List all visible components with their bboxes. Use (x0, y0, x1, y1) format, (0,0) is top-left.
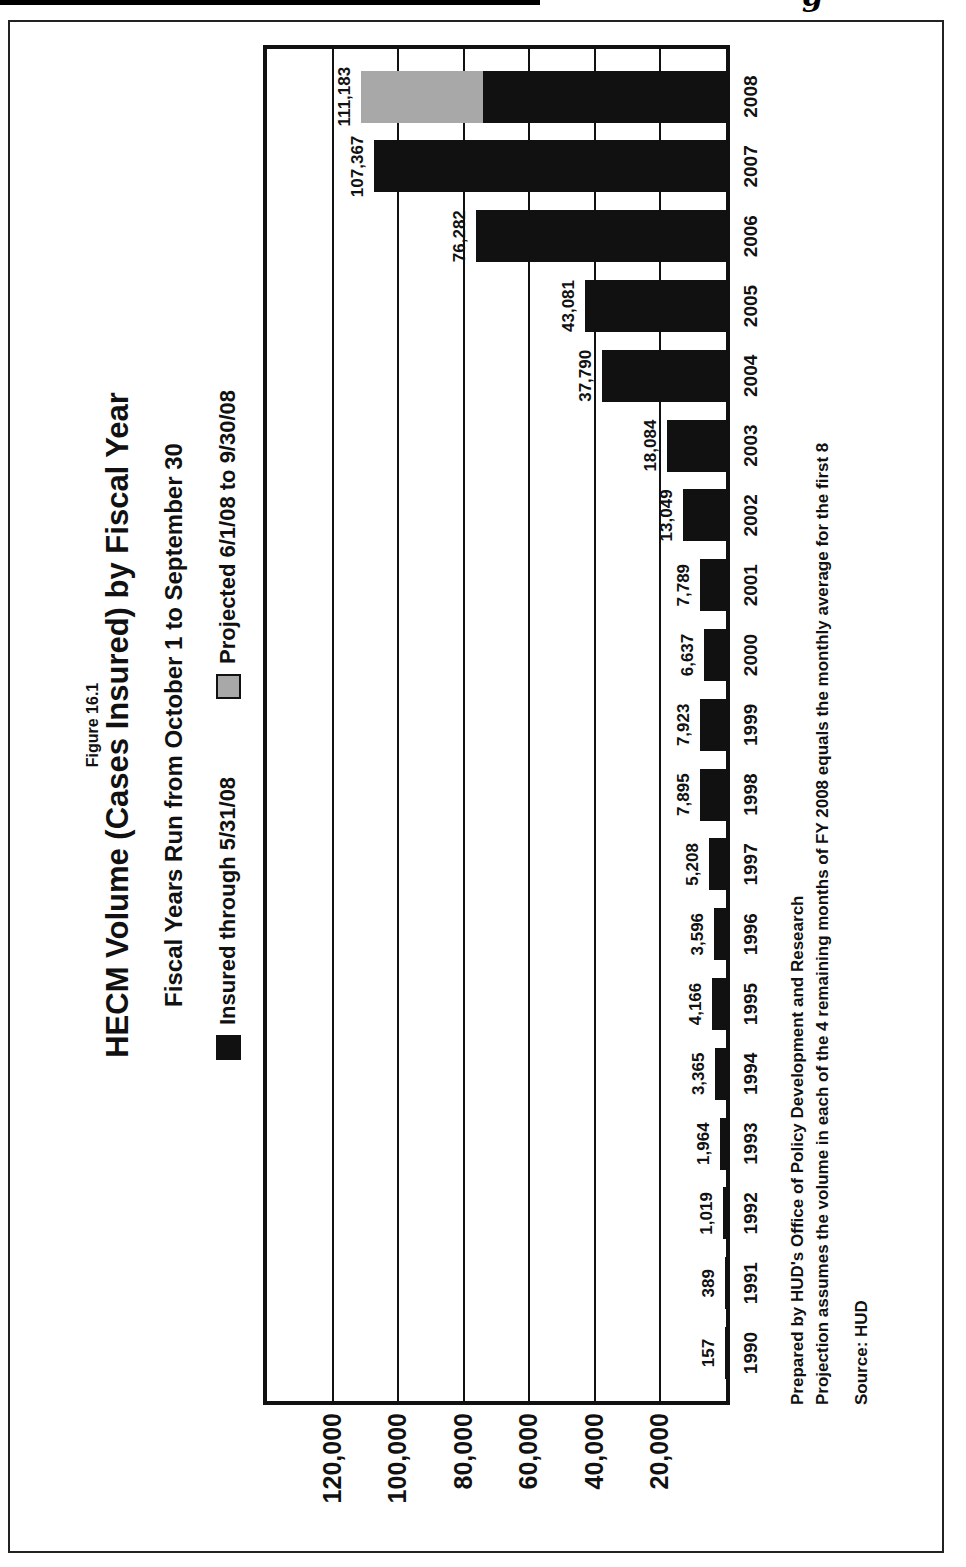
gridline-100000 (397, 49, 399, 1401)
legend-item-insured: Insured through 5/31/08 (215, 777, 241, 1060)
bar-2002 (683, 489, 726, 541)
year-label-1999: 1999 (740, 685, 762, 765)
bar-1999 (700, 699, 726, 751)
year-label-1992: 1992 (740, 1173, 762, 1253)
year-label-1997: 1997 (740, 824, 762, 904)
legend: Insured through 5/31/08 Projected 6/1/08… (208, 45, 248, 1405)
value-axis-label-20000: 20,000 (645, 1413, 674, 1555)
bar-2003 (667, 420, 726, 472)
note-prepared: Prepared by HUD's Office of Policy Devel… (788, 896, 808, 1405)
bar-value-label-2008: 111,183 (335, 67, 355, 127)
plot-area: 1573891,0191,9643,3654,1663,5965,2087,89… (263, 45, 730, 1405)
legend-label-projected: Projected 6/1/08 to 9/30/08 (215, 390, 241, 664)
year-label-2001: 2001 (740, 545, 762, 625)
note-projection: Projection assumes the volume in each of… (813, 443, 833, 1405)
insured-swatch-icon (216, 1035, 241, 1060)
bar-value-label-1993: 1,964 (694, 1122, 714, 1165)
note-source: Source: HUD (852, 1300, 872, 1405)
scanned-page: g g Figure 16.1 HECM Volume (Cases Insur… (0, 0, 966, 1567)
bar-value-label-1995: 4,166 (686, 983, 706, 1026)
bar-1998 (700, 769, 726, 821)
bar-value-label-2006: 76,282 (450, 210, 470, 262)
chart-subtitle: Fiscal Years Run from October 1 to Septe… (160, 5, 188, 1445)
bar-value-label-1998: 7,895 (674, 773, 694, 816)
bar-value-label-2001: 7,789 (674, 564, 694, 607)
year-label-1998: 1998 (740, 755, 762, 835)
bar-2008 (483, 71, 726, 123)
bar-value-label-2007: 107,367 (348, 136, 368, 197)
value-axis-label-60000: 60,000 (514, 1413, 543, 1555)
bar-value-label-2000: 6,637 (678, 634, 698, 677)
gridline-120000 (332, 49, 334, 1401)
year-label-2005: 2005 (740, 266, 762, 346)
legend-label-insured: Insured through 5/31/08 (215, 777, 241, 1025)
year-label-2000: 2000 (740, 615, 762, 695)
bar-value-label-2004: 37,790 (576, 350, 596, 402)
year-label-1993: 1993 (740, 1104, 762, 1184)
bar-value-label-1999: 7,923 (674, 704, 694, 747)
year-label-2008: 2008 (740, 57, 762, 137)
value-axis-label-120000: 120,000 (318, 1413, 347, 1555)
bar-1990 (725, 1327, 726, 1379)
year-label-1990: 1990 (740, 1313, 762, 1393)
year-label-2007: 2007 (740, 126, 762, 206)
year-label-2006: 2006 (740, 196, 762, 276)
chart-title: HECM Volume (Cases Insured) by Fiscal Ye… (100, 5, 136, 1445)
bar-value-label-1997: 5,208 (683, 843, 703, 886)
year-label-1991: 1991 (740, 1243, 762, 1323)
bar-value-label-1990: 157 (699, 1339, 719, 1367)
bar-2005 (585, 280, 726, 332)
bar-1993 (720, 1118, 726, 1170)
bar-1995 (712, 978, 726, 1030)
bar-value-label-1994: 3,365 (689, 1053, 709, 1096)
bar-2004 (602, 350, 726, 402)
value-axis-label-40000: 40,000 (580, 1413, 609, 1555)
projected-swatch-icon (216, 674, 241, 699)
bar-value-label-2002: 13,049 (657, 489, 677, 541)
bar-value-label-1992: 1,019 (697, 1192, 717, 1235)
bar-2006 (476, 210, 726, 262)
value-axis-label-100000: 100,000 (383, 1413, 412, 1555)
year-label-2004: 2004 (740, 336, 762, 416)
bar-2008-projected-segment (361, 71, 483, 123)
bar-2001 (700, 559, 726, 611)
bar-value-label-2005: 43,081 (559, 280, 579, 332)
bar-value-label-2003: 18,084 (641, 420, 661, 472)
rotated-figure: Figure 16.1 HECM Volume (Cases Insured) … (0, 0, 966, 1567)
value-axis-label-80000: 80,000 (449, 1413, 478, 1555)
bar-1992 (723, 1187, 726, 1239)
year-label-1994: 1994 (740, 1034, 762, 1114)
bar-1994 (715, 1048, 726, 1100)
year-label-2003: 2003 (740, 406, 762, 486)
bar-1991 (725, 1257, 726, 1309)
bar-value-label-1996: 3,596 (688, 913, 708, 956)
bar-value-label-1991: 389 (699, 1269, 719, 1297)
year-label-1996: 1996 (740, 894, 762, 974)
bar-2007 (374, 140, 726, 192)
bar-1997 (709, 838, 726, 890)
bar-2000 (704, 629, 726, 681)
bar-1996 (714, 908, 726, 960)
year-label-1995: 1995 (740, 964, 762, 1044)
year-label-2002: 2002 (740, 475, 762, 555)
legend-item-projected: Projected 6/1/08 to 9/30/08 (215, 390, 241, 699)
